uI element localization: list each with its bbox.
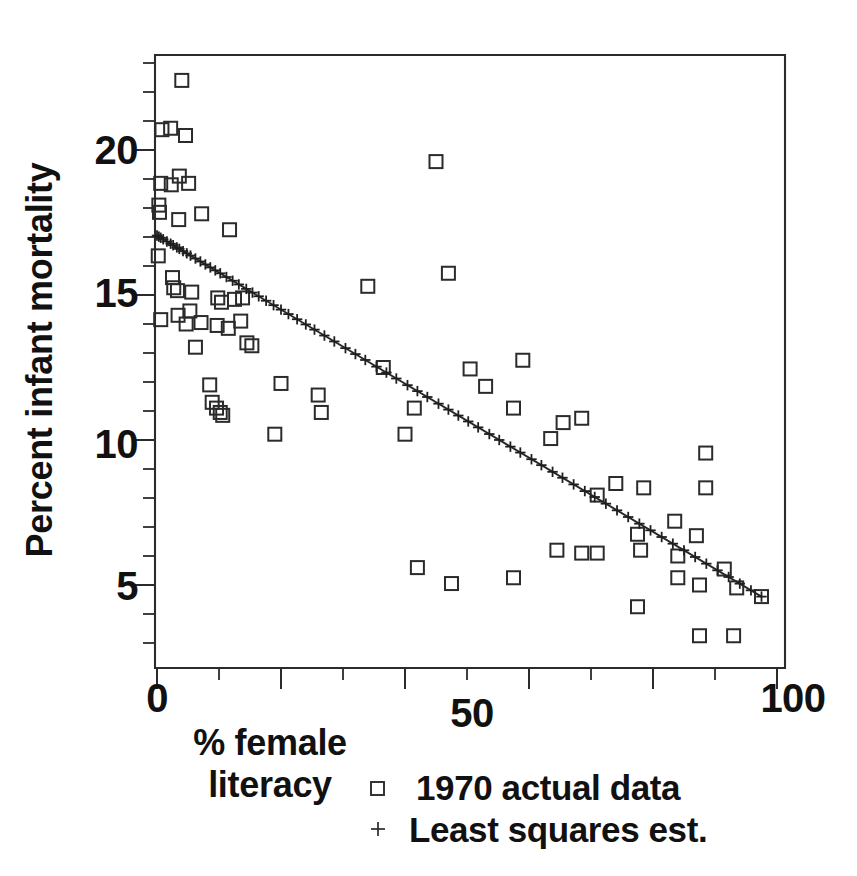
x-tick-label-50: 50 xyxy=(450,691,494,735)
y-tick-label-15: 15 xyxy=(95,271,139,315)
x-tick-label-0: 0 xyxy=(146,676,168,720)
x-tick-label-100: 100 xyxy=(760,676,825,720)
legend-label-least-squares: Least squares est. xyxy=(409,810,707,849)
chart-canvas: 0 50 100 20 15 10 5 % female literacy Pe… xyxy=(0,0,857,876)
y-axis-title: Percent infant mortality xyxy=(19,162,60,557)
x-axis-title-line1: % female xyxy=(193,722,347,763)
x-axis-title-line2: literacy xyxy=(208,764,332,805)
scatter-chart-figure: 0 50 100 20 15 10 5 % female literacy Pe… xyxy=(0,0,857,876)
y-tick-label-10: 10 xyxy=(95,422,139,466)
y-tick-label-20: 20 xyxy=(95,128,139,172)
legend-label-actual-data: 1970 actual data xyxy=(416,768,681,807)
y-tick-label-5: 5 xyxy=(116,564,138,608)
